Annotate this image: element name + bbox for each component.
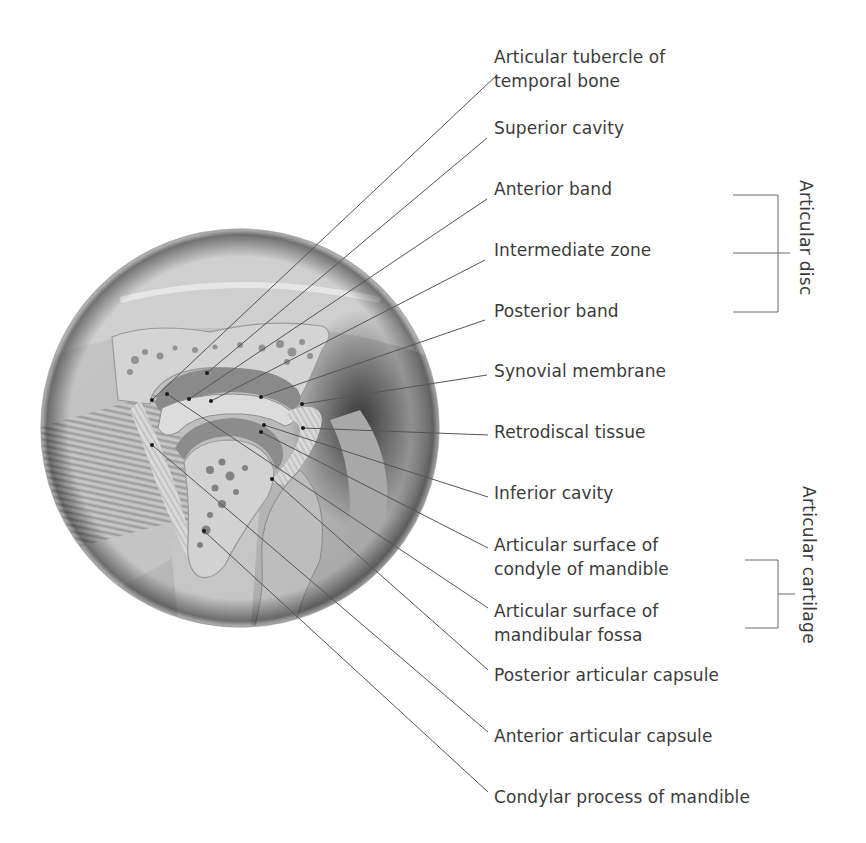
label-anterior-band: Anterior band bbox=[494, 177, 612, 201]
group-brackets bbox=[733, 195, 795, 628]
label-inferior-cavity: Inferior cavity bbox=[494, 481, 614, 505]
pointer-dot-inferior-cavity bbox=[262, 423, 266, 427]
pointer-dot-posterior-band bbox=[259, 395, 263, 399]
pointer-dot-condylar-process bbox=[202, 529, 206, 533]
label-synovial-membrane: Synovial membrane bbox=[494, 359, 666, 383]
pointer-dot-articular-surface-fossa bbox=[165, 392, 169, 396]
pointer-dot-anterior-articular-capsule bbox=[150, 443, 154, 447]
tmj-illustration bbox=[0, 0, 866, 843]
label-superior-cavity: Superior cavity bbox=[494, 116, 624, 140]
pointer-dot-anterior-band bbox=[187, 397, 191, 401]
label-articular-surface-fossa: Articular surface ofmandibular fossa bbox=[494, 599, 658, 647]
label-retrodiscal-tissue: Retrodiscal tissue bbox=[494, 420, 646, 444]
illustration-content bbox=[30, 220, 450, 640]
pointer-dot-retrodiscal-tissue bbox=[301, 426, 305, 430]
pointer-dot-articular-tubercle bbox=[150, 398, 154, 402]
bracket-articular-cartilage bbox=[745, 560, 795, 628]
label-articular-tubercle: Articular tubercle oftemporal bone bbox=[494, 45, 665, 93]
bracket-articular-disc bbox=[733, 195, 790, 312]
pointer-dot-superior-cavity bbox=[205, 371, 209, 375]
label-intermediate-zone: Intermediate zone bbox=[494, 238, 651, 262]
group-label-articular-disc: Articular disc bbox=[796, 180, 816, 296]
label-anterior-articular-capsule: Anterior articular capsule bbox=[494, 724, 712, 748]
pointer-dot-intermediate-zone bbox=[209, 399, 213, 403]
pointer-dot-synovial-membrane bbox=[300, 402, 304, 406]
label-posterior-articular-capsule: Posterior articular capsule bbox=[494, 663, 719, 687]
tmj-diagram: Articular tubercle oftemporal bone Super… bbox=[0, 0, 866, 843]
pointer-dot-posterior-articular-capsule bbox=[270, 477, 274, 481]
label-posterior-band: Posterior band bbox=[494, 299, 619, 323]
label-condylar-process: Condylar process of mandible bbox=[494, 785, 750, 809]
group-label-articular-cartilage: Articular cartilage bbox=[799, 486, 819, 644]
pointer-dot-articular-surface-condyle bbox=[259, 430, 263, 434]
label-articular-surface-condyle: Articular surface ofcondyle of mandible bbox=[494, 533, 669, 581]
